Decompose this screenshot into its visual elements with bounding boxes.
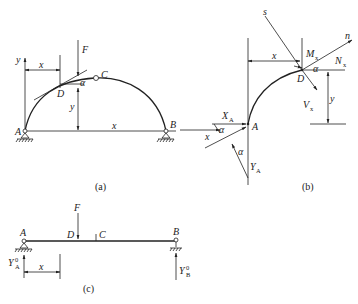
label-f: F (81, 44, 89, 55)
svg-text:x: x (343, 61, 347, 68)
label-x-axis: x (111, 120, 117, 131)
arch-curve (25, 78, 166, 131)
label-y-dim-b: y (329, 93, 335, 104)
label-xa: X A (221, 110, 234, 123)
label-mx: M x (305, 48, 319, 61)
svg-text:N: N (334, 55, 343, 66)
label-d-c: D (66, 229, 75, 240)
label-a-b: A (251, 121, 259, 132)
label-yb0: Y 0 B (179, 264, 191, 278)
label-ya0: Y 0 A (8, 256, 20, 270)
arch-diagram: A B C D F y x x y α (a) (0, 0, 358, 304)
arch-segment (248, 70, 302, 124)
label-alpha-a: α (219, 124, 225, 135)
svg-text:X: X (221, 110, 229, 121)
label-d-b: D (296, 73, 305, 84)
label-a: A (14, 126, 22, 137)
point-d (301, 69, 304, 72)
svg-text:Y: Y (8, 257, 15, 268)
label-n: n (345, 30, 350, 41)
label-x-dim-c: x (38, 261, 44, 272)
label-alpha: α (80, 77, 86, 88)
svg-text:A: A (15, 263, 20, 270)
label-ya: Y A (250, 161, 261, 174)
label-d: D (56, 88, 65, 99)
hinge-c (94, 76, 99, 81)
label-b-c: B (173, 226, 179, 237)
point-a (247, 123, 250, 126)
label-c-c: C (99, 229, 106, 240)
caption-c: (c) (83, 283, 94, 295)
label-nx: N x (334, 55, 347, 68)
label-alpha-d: α (313, 63, 319, 74)
figure-c: A B C D F x Y 0 A Y 0 B (c) (8, 202, 191, 295)
label-s: s (263, 6, 267, 17)
label-x-dim: x (38, 59, 44, 70)
svg-text:0: 0 (15, 256, 18, 263)
figure-a: A B C D F y x x y α (a) (14, 40, 176, 193)
s-axis (265, 16, 302, 70)
label-x-axis-b: x (204, 131, 210, 142)
label-y-axis: y (15, 54, 21, 65)
svg-text:A: A (256, 167, 261, 174)
label-f-c: F (73, 202, 81, 213)
label-b: B (170, 119, 176, 130)
label-vx: V x (303, 99, 314, 112)
label-c: C (101, 69, 108, 80)
svg-text:0: 0 (186, 264, 189, 271)
svg-text:A: A (229, 116, 234, 123)
svg-text:Y: Y (179, 265, 186, 276)
label-y-dim: y (69, 101, 75, 112)
support-b-c (170, 238, 182, 251)
svg-text:M: M (305, 48, 315, 59)
caption-a: (a) (95, 181, 106, 193)
label-alpha-ya: α (238, 146, 244, 157)
svg-text:x: x (310, 105, 314, 112)
label-x-dim-b: x (271, 50, 277, 61)
moment-m-arrow (294, 66, 302, 68)
figure-b: s n x M x N x V x D A α α α X A Y A x y … (180, 6, 352, 193)
caption-b: (b) (302, 181, 314, 193)
label-a-c: A (19, 227, 27, 238)
svg-text:B: B (186, 271, 191, 278)
